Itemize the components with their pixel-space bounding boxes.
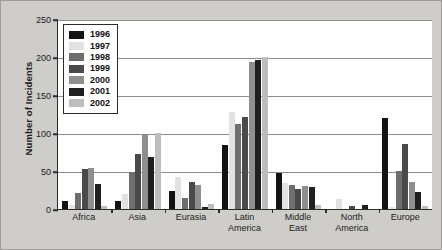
y-axis-tick-label: 100 xyxy=(17,129,51,139)
bar-chart-figure: Number of Incidents 050100150200250 Afri… xyxy=(0,0,442,250)
legend-swatch xyxy=(69,65,84,73)
bar xyxy=(396,171,402,209)
x-axis-labels: AfricaAsiaEurasiaLatin AmericaMiddle Eas… xyxy=(57,212,432,233)
bar xyxy=(101,206,107,209)
bar xyxy=(409,182,415,209)
x-axis-label: Europe xyxy=(378,212,432,233)
x-axis-label: Middle East xyxy=(271,212,325,233)
bar xyxy=(115,201,121,209)
y-axis-tick-label: 200 xyxy=(17,53,51,63)
bar xyxy=(62,201,68,209)
bar xyxy=(229,112,235,209)
x-axis-label: Latin America xyxy=(218,212,272,233)
legend: 1996199719981999200020012002 xyxy=(63,24,118,114)
bar xyxy=(155,133,161,209)
legend-item: 2000 xyxy=(69,75,110,86)
legend-label: 1998 xyxy=(90,53,110,62)
bar xyxy=(262,57,268,209)
bar xyxy=(122,194,128,209)
bar xyxy=(88,168,94,209)
bar xyxy=(389,207,395,209)
legend-label: 1999 xyxy=(90,64,110,73)
y-axis-tick-mark xyxy=(53,209,58,211)
bar xyxy=(69,205,75,209)
legend-label: 2001 xyxy=(90,87,110,96)
x-axis-label: Africa xyxy=(57,212,111,233)
bar xyxy=(189,182,195,209)
bar-group xyxy=(218,20,271,209)
bar xyxy=(142,134,148,209)
bar xyxy=(382,118,388,209)
bar xyxy=(195,185,201,209)
bar xyxy=(148,157,154,209)
bar xyxy=(208,204,214,209)
bar xyxy=(82,169,88,209)
y-axis-tick-label: 50 xyxy=(17,167,51,177)
bar-group xyxy=(165,20,218,209)
bar xyxy=(315,205,321,209)
bar xyxy=(242,117,248,209)
legend-swatch xyxy=(69,42,84,50)
bar xyxy=(202,207,208,209)
bar xyxy=(349,206,355,209)
bar xyxy=(402,144,408,209)
legend-item: 2002 xyxy=(69,97,110,108)
legend-swatch xyxy=(69,31,84,39)
bar xyxy=(249,62,255,209)
bar xyxy=(129,172,135,209)
bar-group xyxy=(379,20,432,209)
legend-label: 2000 xyxy=(90,76,110,85)
y-axis-tick-label: 250 xyxy=(17,15,51,25)
bar-group xyxy=(272,20,325,209)
legend-item: 1998 xyxy=(69,52,110,63)
bar xyxy=(362,205,368,209)
x-axis-label: Eurasia xyxy=(164,212,218,233)
legend-swatch xyxy=(69,76,84,84)
legend-swatch xyxy=(69,53,84,61)
legend-swatch xyxy=(69,99,84,107)
legend-item: 1997 xyxy=(69,40,110,51)
y-axis-tick-label: 0 xyxy=(17,205,51,215)
legend-item: 2001 xyxy=(69,86,110,97)
legend-item: 1996 xyxy=(69,29,110,40)
bar xyxy=(415,192,421,209)
bar xyxy=(175,177,181,209)
bar-group xyxy=(325,20,378,209)
bar-group xyxy=(111,20,164,209)
bar xyxy=(309,187,315,209)
x-axis-label: Asia xyxy=(111,212,165,233)
legend-label: 1997 xyxy=(90,42,110,51)
bar xyxy=(422,206,428,209)
y-axis-tick-label: 150 xyxy=(17,91,51,101)
bar xyxy=(95,184,101,209)
bar xyxy=(182,198,188,209)
bar xyxy=(302,186,308,209)
legend-label: 1996 xyxy=(90,30,110,39)
bar xyxy=(276,173,282,209)
bar xyxy=(336,199,342,209)
bar xyxy=(135,154,141,209)
bar xyxy=(295,189,301,209)
bar xyxy=(235,124,241,209)
legend-swatch xyxy=(69,88,84,96)
legend-label: 2002 xyxy=(90,99,110,108)
bar xyxy=(222,145,228,209)
legend-item: 1999 xyxy=(69,63,110,74)
x-axis-label: North America xyxy=(325,212,379,233)
bar xyxy=(255,60,261,209)
bar xyxy=(169,191,175,209)
bar xyxy=(75,193,81,209)
bar xyxy=(282,183,288,209)
bar xyxy=(289,185,295,209)
